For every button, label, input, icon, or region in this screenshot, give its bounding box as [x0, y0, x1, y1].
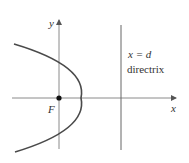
- x-axis-label: x: [170, 102, 176, 114]
- focus-point: [56, 95, 61, 100]
- focus-label: F: [47, 103, 55, 115]
- directrix-equation-label: x = d: [127, 48, 152, 60]
- y-axis-label: y: [48, 17, 54, 29]
- directrix-name-label: directrix: [127, 63, 165, 75]
- parabola-diagram: y x F x = d directrix: [0, 0, 189, 163]
